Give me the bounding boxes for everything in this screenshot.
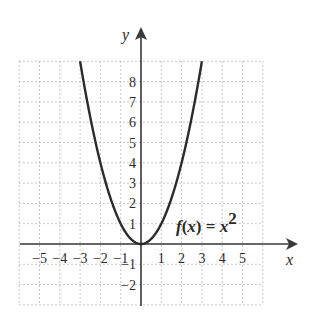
- y-tick-label: 4: [129, 156, 136, 171]
- y-tick-label: 5: [129, 136, 136, 151]
- x-tick-label: 4: [219, 251, 226, 266]
- y-tick-label: 2: [129, 196, 136, 211]
- x-tick-labels: −5−4−3−2−112345: [32, 251, 246, 266]
- x-tick-label: 1: [158, 251, 165, 266]
- y-tick-label: −1: [121, 257, 136, 272]
- y-tick-label: 7: [129, 95, 136, 110]
- x-tick-label: 5: [239, 251, 246, 266]
- x-axis-label: x: [285, 251, 293, 268]
- x-tick-label: −2: [93, 251, 108, 266]
- y-tick-label: 3: [129, 176, 136, 191]
- x-tick-label: −5: [32, 251, 47, 266]
- function-label: f(x) = x2: [176, 209, 237, 236]
- y-tick-label: 6: [129, 115, 136, 130]
- parabola-chart: −5−4−3−2−112345 87654321−1−2 x y f(x) = …: [0, 0, 320, 323]
- x-tick-label: 3: [198, 251, 205, 266]
- x-tick-label: −4: [52, 251, 67, 266]
- y-tick-label: −2: [121, 278, 136, 293]
- x-tick-label: 2: [178, 251, 185, 266]
- y-axis-label: y: [120, 26, 130, 44]
- y-tick-label: 1: [129, 217, 136, 232]
- y-tick-label: 8: [129, 75, 136, 90]
- x-tick-label: −3: [73, 251, 88, 266]
